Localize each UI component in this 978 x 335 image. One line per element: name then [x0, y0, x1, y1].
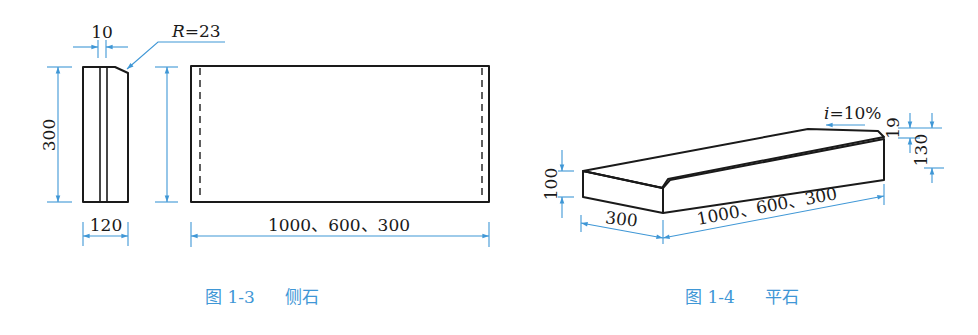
radius-leader-line	[127, 42, 225, 69]
top-face	[583, 129, 884, 188]
back-height-label: 130	[911, 134, 931, 166]
width-label: 300	[604, 207, 638, 230]
caption-number: 图 1-4	[685, 287, 735, 307]
edge-label: 19	[883, 117, 903, 139]
caption-number: 图 1-3	[205, 287, 255, 307]
curb-side-view: 300 10 R=23 120	[39, 21, 225, 246]
front-top-edge	[583, 171, 663, 188]
width-label: 120	[90, 215, 122, 235]
groove-label: 10	[91, 22, 113, 42]
curb-front-outline	[191, 66, 489, 202]
drawing-canvas: 300 10 R=23 120	[0, 0, 978, 335]
height-label: 300	[39, 119, 59, 151]
curb-front-view: 1000、600、300	[155, 66, 489, 247]
curb-side-outline	[83, 67, 128, 202]
caption-title: 侧石	[285, 287, 319, 307]
figure-1-3: 300 10 R=23 120	[39, 21, 489, 307]
front-height-label: 100	[541, 168, 561, 200]
figure-1-4: i=10% 100 300 1000、600、300 19	[541, 103, 944, 307]
caption-title: 平石	[765, 287, 799, 307]
radius-label: R=23	[171, 21, 221, 41]
length-label: 1000、600、300	[268, 215, 410, 235]
slope-label: i=10%	[824, 103, 881, 123]
front-face	[583, 171, 663, 213]
flat-stone-isometric: i=10% 100 300 1000、600、300 19	[541, 103, 944, 244]
length-label: 1000、600、300	[695, 183, 838, 229]
